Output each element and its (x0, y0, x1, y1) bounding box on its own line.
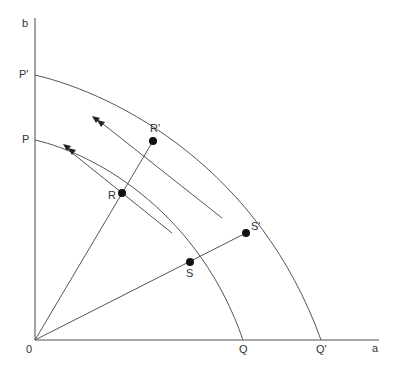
x-axis-label: a (372, 342, 379, 354)
point-r-prime (149, 137, 157, 145)
label-r: R (108, 189, 116, 201)
label-p: P (22, 133, 29, 145)
ppf-diagram: b a 0 P' P Q Q' R' R S S' (0, 0, 400, 368)
label-q: Q (239, 343, 248, 355)
origin-label: 0 (26, 343, 32, 355)
point-s (186, 258, 194, 266)
label-s: S (186, 267, 193, 279)
label-s-prime: S' (251, 220, 260, 232)
point-s-prime (242, 229, 250, 237)
inner-frontier-curve (35, 140, 243, 340)
double-arrowhead-icon (97, 120, 105, 127)
outer-frontier-curve (35, 75, 321, 340)
y-axis-label: b (22, 17, 28, 29)
label-q-prime: Q' (316, 343, 327, 355)
label-p-prime: P' (19, 68, 28, 80)
point-r (118, 189, 126, 197)
label-r-prime: R' (150, 122, 160, 134)
